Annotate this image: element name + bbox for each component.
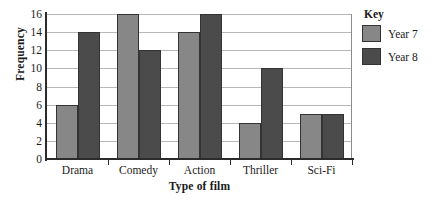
y-axis-tick-labels: 0246810121416 bbox=[20, 8, 42, 159]
bar-group bbox=[117, 14, 161, 159]
y-tick-label: 4 bbox=[20, 118, 42, 128]
legend-label: Year 7 bbox=[388, 28, 418, 40]
x-axis-line bbox=[45, 158, 354, 160]
legend: Key Year 7Year 8 bbox=[362, 8, 438, 71]
legend-item-year-7: Year 7 bbox=[362, 25, 438, 42]
legend-label: Year 8 bbox=[388, 51, 418, 63]
legend-rows: Year 7Year 8 bbox=[362, 25, 438, 65]
y-tick-label: 8 bbox=[20, 82, 42, 92]
bar-drama-year-8 bbox=[78, 32, 100, 159]
y-tick-label: 12 bbox=[20, 45, 42, 55]
bar-comedy-year-8 bbox=[139, 50, 161, 159]
bar-group bbox=[56, 14, 100, 159]
y-tick-label: 10 bbox=[20, 63, 42, 73]
bar-action-year-7 bbox=[178, 32, 200, 159]
bar-action-year-8 bbox=[200, 14, 222, 159]
legend-swatch-icon bbox=[362, 48, 381, 65]
x-category-label: Sci-Fi bbox=[291, 164, 352, 176]
x-tick-mark bbox=[352, 160, 353, 165]
y-tick-label: 6 bbox=[20, 100, 42, 110]
x-category-label: Action bbox=[169, 164, 230, 176]
x-category-label: Drama bbox=[47, 164, 108, 176]
y-tick-label: 0 bbox=[20, 154, 42, 164]
x-category-label: Thriller bbox=[230, 164, 291, 176]
bar-group bbox=[300, 14, 344, 159]
x-category-label: Comedy bbox=[108, 164, 169, 176]
bar-comedy-year-7 bbox=[117, 14, 139, 159]
y-tick-label: 14 bbox=[20, 27, 42, 37]
bar-thriller-year-7 bbox=[239, 123, 261, 159]
y-tick-label: 2 bbox=[20, 136, 42, 146]
y-tick-label: 16 bbox=[20, 9, 42, 19]
bars-layer bbox=[47, 14, 352, 159]
bar-group bbox=[239, 14, 283, 159]
bar-group bbox=[178, 14, 222, 159]
legend-item-year-8: Year 8 bbox=[362, 48, 438, 65]
legend-title: Key bbox=[364, 8, 438, 20]
bar-thriller-year-8 bbox=[261, 68, 283, 159]
bar-drama-year-7 bbox=[56, 105, 78, 159]
bar-sci-fi-year-8 bbox=[322, 114, 344, 159]
bar-chart-figure: Frequency 0246810121416 DramaComedyActio… bbox=[0, 0, 439, 201]
legend-swatch-icon bbox=[362, 25, 381, 42]
x-axis-title: Type of film bbox=[47, 180, 352, 192]
bar-sci-fi-year-7 bbox=[300, 114, 322, 159]
